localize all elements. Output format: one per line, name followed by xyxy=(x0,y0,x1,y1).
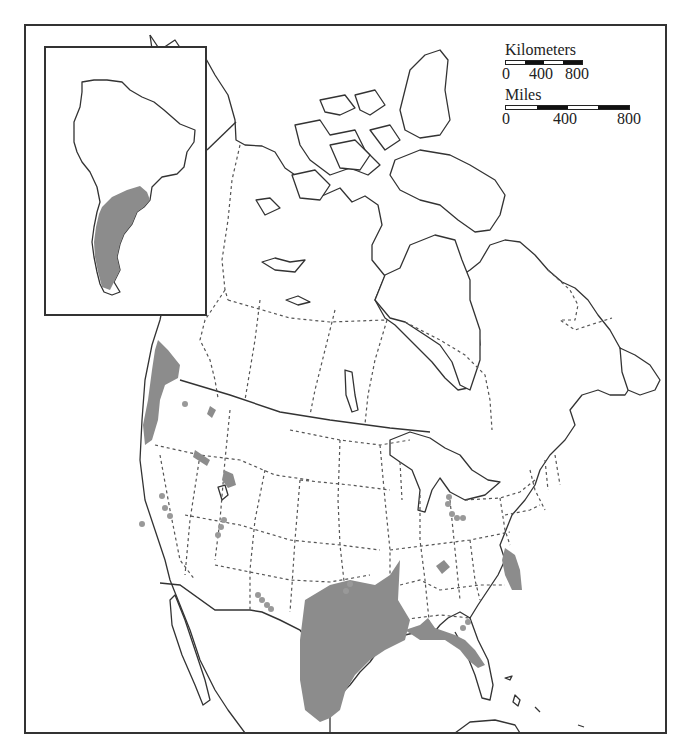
miles-ticks: 0 400 800 xyxy=(505,110,655,128)
alaska-border xyxy=(207,122,236,150)
lake-winnipeg xyxy=(345,370,358,412)
great-slave-lake xyxy=(262,258,305,272)
range-virginia-carolina xyxy=(502,548,522,590)
mi-tick-800: 800 xyxy=(617,110,641,128)
hudson-bay xyxy=(375,235,480,390)
great-lakes xyxy=(390,432,500,512)
lake-athabasca xyxy=(286,296,310,305)
arctic-island-5 xyxy=(370,125,400,150)
ellesmere-island xyxy=(400,50,450,138)
baffin-island xyxy=(390,150,505,232)
kilometers-title: Kilometers xyxy=(505,42,655,58)
km-tick-800: 800 xyxy=(565,65,589,83)
bahamas-4 xyxy=(578,725,584,727)
us-canada-border xyxy=(180,380,430,432)
mi-tick-0: 0 xyxy=(502,110,510,128)
range-kentucky-patch xyxy=(436,560,450,574)
cuba xyxy=(455,720,520,733)
mi-tick-400: 400 xyxy=(553,110,577,128)
baja-california xyxy=(170,595,210,705)
bahamas-1 xyxy=(505,676,512,680)
great-bear-lake xyxy=(256,198,280,215)
political-boundaries xyxy=(155,145,612,630)
newfoundland xyxy=(620,348,660,395)
south-america-inset xyxy=(44,46,207,316)
range-south-america xyxy=(94,186,150,290)
bahamas-3 xyxy=(535,707,540,712)
south-america-coastline xyxy=(74,80,195,295)
miles-title: Miles xyxy=(505,87,655,103)
range-texas-gulf xyxy=(300,560,410,722)
km-tick-400: 400 xyxy=(529,65,553,83)
scale-legend: Kilometers 0 400 800 Miles 0 400 800 xyxy=(505,42,655,128)
range-idaho-patch xyxy=(207,406,216,418)
range-nevada-strip xyxy=(193,450,210,466)
south-america-map xyxy=(46,48,205,314)
bahamas-2 xyxy=(513,695,520,706)
kilometers-ticks: 0 400 800 xyxy=(505,65,655,83)
arctic-island-2 xyxy=(320,95,355,115)
km-tick-0: 0 xyxy=(502,65,510,83)
great-salt-lake xyxy=(218,485,228,500)
range-pacific-northwest xyxy=(143,340,180,445)
arctic-island-3 xyxy=(355,90,385,115)
